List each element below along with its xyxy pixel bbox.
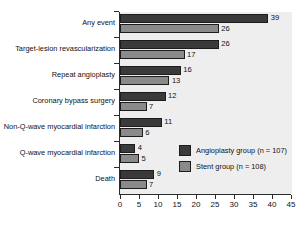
x-axis-tick-label: 0: [118, 200, 122, 209]
bar: [120, 24, 219, 33]
x-axis-tick: [234, 195, 235, 199]
category-group: Repeat angioplasty1613: [0, 64, 300, 90]
category-label: Repeat angioplasty: [0, 70, 115, 79]
category-label: Target-lesion revascularization: [0, 44, 115, 53]
bar-value-label: 6: [145, 128, 149, 138]
bar: [120, 154, 139, 163]
category-label: Coronary bypass surgery: [0, 96, 115, 105]
category-group: Non-Q-wave myocardial infarction116: [0, 116, 300, 142]
bar-value-label: 16: [183, 65, 191, 75]
bar: [120, 66, 181, 75]
bar: [120, 128, 143, 137]
x-axis-tick: [177, 195, 178, 199]
category-label: Non-Q-wave myocardial infarction: [0, 122, 115, 131]
x-axis-tick-label: 5: [137, 200, 141, 209]
x-axis-tick-label: 20: [192, 200, 201, 209]
bar: [120, 76, 169, 85]
category-label: Death: [0, 174, 115, 183]
bar-value-label: 13: [172, 76, 180, 86]
category-tick: [114, 141, 119, 142]
x-axis-tick: [215, 195, 216, 199]
bar-value-label: 12: [168, 91, 176, 101]
bar-value-label: 26: [221, 24, 229, 34]
legend-entry: Stent group (n = 108): [179, 158, 287, 174]
category-group: Coronary bypass surgery127: [0, 90, 300, 116]
x-axis-tick: [196, 195, 197, 199]
category-tick: [114, 167, 119, 168]
legend-label: Angioplasty group (n = 107): [196, 146, 287, 155]
category-group: Target-lesion revascularization2617: [0, 38, 300, 64]
bar-value-label: 7: [149, 180, 153, 190]
x-axis-tick-label: 25: [211, 200, 220, 209]
chart-legend: Angioplasty group (n = 107)Stent group (…: [179, 142, 287, 174]
legend-swatch: [179, 145, 191, 156]
x-axis-tick-label: 15: [173, 200, 182, 209]
category-tick: [114, 89, 119, 90]
bar: [120, 102, 147, 111]
x-axis-tick-label: 30: [230, 200, 239, 209]
x-axis-line: [119, 194, 291, 195]
bar: [120, 92, 166, 101]
bar-value-label: 26: [221, 39, 229, 49]
bar: [120, 14, 268, 23]
bar-value-label: 39: [271, 13, 279, 23]
category-label: Any event: [0, 18, 115, 27]
legend-entry: Angioplasty group (n = 107): [179, 142, 287, 158]
x-axis-tick: [158, 195, 159, 199]
bar: [120, 144, 135, 153]
category-label: Q-wave myocardial infarction: [0, 148, 115, 157]
x-axis-tick-label: 40: [268, 200, 277, 209]
bar-value-label: 7: [149, 102, 153, 112]
bar-value-label: 5: [142, 154, 146, 164]
x-axis-tick-label: 10: [154, 200, 163, 209]
bar-value-label: 4: [138, 143, 142, 153]
category-group: Any event3926: [0, 12, 300, 38]
x-axis-tick-label: 45: [287, 200, 296, 209]
bar-value-label: 11: [164, 117, 172, 127]
x-axis-tick-label: 35: [249, 200, 258, 209]
bar: [120, 118, 162, 127]
bar: [120, 180, 147, 189]
x-axis-tick: [253, 195, 254, 199]
x-axis-tick: [120, 195, 121, 199]
bar-value-label: 9: [157, 169, 161, 179]
bar: [120, 40, 219, 49]
category-tick: [114, 11, 119, 12]
x-axis-tick: [272, 195, 273, 199]
category-tick: [114, 115, 119, 116]
bar-chart-figure: Any event3926Target-lesion revasculariza…: [0, 0, 300, 225]
legend-swatch: [179, 161, 191, 172]
legend-label: Stent group (n = 108): [196, 162, 266, 171]
bar: [120, 50, 185, 59]
bar: [120, 170, 154, 179]
category-tick: [114, 63, 119, 64]
x-axis-tick: [291, 195, 292, 199]
x-axis-tick: [139, 195, 140, 199]
category-tick: [114, 37, 119, 38]
bar-value-label: 17: [187, 50, 195, 60]
